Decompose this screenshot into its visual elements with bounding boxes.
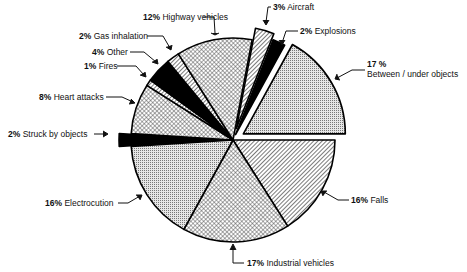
label-explosions: 2% Explosions	[300, 26, 356, 36]
label-electrocution: 16% Electrocution	[45, 198, 114, 208]
label-struck-by-objects: 2% Struck by objects	[8, 129, 87, 139]
label-between-under-objects: 17 %Between / under objects	[367, 59, 458, 79]
pie-slices	[119, 28, 345, 242]
label-highway-vehicles: 12% Highway vehicles	[143, 12, 228, 22]
label-industrial-vehicles: 17% Industrial vehicles	[247, 258, 334, 268]
label-other: 4% Other	[92, 47, 128, 57]
label-aircraft: 3% Aircraft	[273, 2, 314, 12]
label-falls: 16% Falls	[351, 195, 388, 205]
label-heart-attacks: 8% Heart attacks	[39, 92, 104, 102]
label-gas-inhalation: 2% Gas inhalation	[79, 31, 148, 41]
label-fires: 1% Fires	[84, 61, 118, 71]
